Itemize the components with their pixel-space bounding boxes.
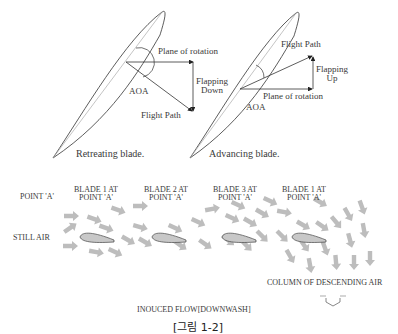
still-air-label: STILL AIR xyxy=(13,234,50,242)
column-header-blade-1: BLADE 1 AT POINT 'A' xyxy=(68,186,124,203)
advancing-aoa-arc xyxy=(256,65,264,78)
advancing-flapping-label: Flapping Up xyxy=(314,65,350,84)
figure-caption: [그림 1-2] xyxy=(173,322,223,334)
retreating-blade-caption: Retreating blade. xyxy=(76,149,144,160)
retreating-blade-diagram xyxy=(53,11,193,158)
descending-air-label: COLUMN OF DESCENDING AIR xyxy=(267,279,382,287)
advancing-plane-label: Plane of rotation xyxy=(263,92,323,101)
airfoil-4 xyxy=(292,233,326,242)
column-header-blade-3: BLADE 3 AT POINT 'A' xyxy=(207,186,263,203)
retreating-plane-label: Plane of rotation xyxy=(158,47,218,56)
column-header-point-a: POINT 'A' xyxy=(12,193,62,201)
induced-flow-arrows xyxy=(61,194,375,274)
airfoil-2 xyxy=(152,233,186,242)
advancing-flight-path-arrow xyxy=(240,56,312,89)
advancing-flight-path-label: Flight Path xyxy=(281,40,321,49)
retreating-aoa-label: AOA xyxy=(129,87,149,96)
advancing-blade-caption: Advancing blade. xyxy=(209,149,280,160)
column-header-blade-1-again: BLADE 1 AT POINT 'A' xyxy=(276,186,332,203)
induced-flow-label: INOUCED FLOW[DOWNWASH] xyxy=(137,306,251,314)
advancing-flapping-label-line2: Up xyxy=(314,74,350,83)
column-header-blade-2: BLADE 2 AT POINT 'A' xyxy=(138,186,194,203)
descending-column-bracket xyxy=(320,296,346,306)
retreating-flight-path-label: Flight Path xyxy=(141,111,181,120)
advancing-aoa-label: AOA xyxy=(246,103,266,112)
airfoil-1 xyxy=(80,233,114,242)
retreating-flapping-label: Flapping Down xyxy=(192,77,232,96)
retreating-chord-line xyxy=(53,11,163,158)
retreating-flapping-label-line2: Down xyxy=(192,86,232,95)
